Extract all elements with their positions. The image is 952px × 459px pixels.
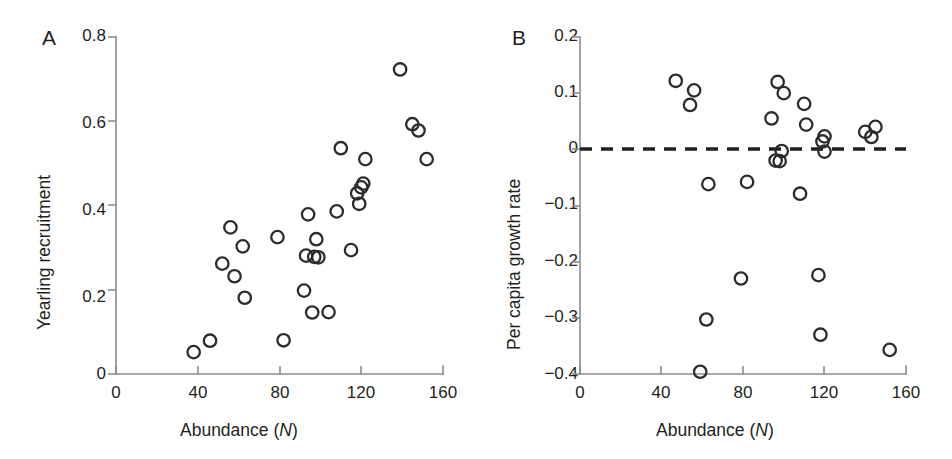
data-point — [331, 205, 343, 217]
data-point — [800, 118, 812, 130]
data-point — [778, 87, 790, 99]
data-point — [688, 84, 700, 96]
data-point — [187, 346, 199, 358]
data-point — [735, 272, 747, 284]
data-point — [239, 292, 251, 304]
data-point — [322, 306, 334, 318]
data-point — [420, 153, 432, 165]
data-point — [224, 221, 236, 233]
data-point — [741, 176, 753, 188]
data-point — [228, 270, 240, 282]
data-point — [670, 75, 682, 87]
panel-a-plot-area — [0, 0, 476, 459]
data-point — [277, 334, 289, 346]
data-point — [357, 177, 369, 189]
panel-a-axes — [108, 37, 443, 374]
data-point — [700, 313, 712, 325]
data-point — [302, 208, 314, 220]
data-point — [694, 366, 706, 378]
data-point — [345, 244, 357, 256]
panel-b-plot-area — [476, 0, 952, 459]
panel-b-axes — [572, 37, 906, 374]
data-point — [814, 328, 826, 340]
panel-b: B Per capita growth rate Abundance (N) 0… — [476, 0, 952, 459]
panel-b-data-points — [670, 75, 896, 378]
data-point — [216, 257, 228, 269]
data-point — [204, 335, 216, 347]
data-point — [237, 240, 249, 252]
data-point — [335, 142, 347, 154]
data-point — [812, 269, 824, 281]
panel-a-data-points — [187, 63, 432, 358]
data-point — [702, 178, 714, 190]
data-point — [765, 112, 777, 124]
data-point — [684, 99, 696, 111]
data-point — [359, 153, 371, 165]
data-point — [394, 63, 406, 75]
data-point — [794, 188, 806, 200]
panel-a: A Yearling recruitment Abundance (N) 0.8… — [0, 0, 476, 459]
data-point — [306, 306, 318, 318]
figure-container: A Yearling recruitment Abundance (N) 0.8… — [0, 0, 952, 459]
data-point — [310, 233, 322, 245]
data-point — [298, 284, 310, 296]
data-point — [798, 98, 810, 110]
data-point — [271, 231, 283, 243]
data-point — [884, 344, 896, 356]
